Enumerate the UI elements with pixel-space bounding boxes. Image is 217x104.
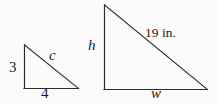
small-triangle-horizontal-leg-label: 4: [41, 86, 49, 101]
small-triangle-vertical-leg-label: 3: [9, 60, 17, 75]
large-triangle-hypotenuse: [105, 5, 208, 90]
geometry-figure: 3 4 c h w 19 in.: [0, 0, 217, 104]
large-triangle-hypotenuse-label: 19 in.: [145, 26, 176, 40]
large-triangle: [104, 5, 208, 90]
large-triangle-vertical-leg-label: h: [88, 38, 96, 53]
small-triangle-hypotenuse-label: c: [49, 48, 56, 63]
triangles-svg: [0, 0, 217, 104]
large-triangle-horizontal-leg-label: w: [151, 86, 161, 101]
